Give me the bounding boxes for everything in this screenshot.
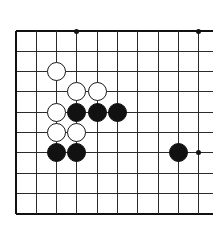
grid-line-vertical-8	[178, 31, 179, 214]
grid-line-horizontal-0	[16, 30, 213, 32]
grid-line-vertical-9	[198, 31, 199, 214]
grid-line-vertical-4	[97, 31, 98, 214]
grid-line-horizontal-2	[16, 71, 213, 72]
white-stone-d4[interactable]	[67, 82, 86, 101]
star-point-top-right-icon	[196, 29, 201, 34]
star-point-right-icon	[196, 150, 201, 155]
board-grid	[0, 0, 224, 238]
grid-line-horizontal-5	[16, 132, 213, 133]
grid-line-horizontal-9	[16, 213, 213, 215]
star-point-top-icon	[74, 29, 79, 34]
grid-line-horizontal-7	[16, 173, 213, 174]
grid-line-vertical-6	[137, 31, 138, 214]
grid-line-horizontal-3	[16, 91, 213, 92]
white-stone-e4[interactable]	[88, 82, 107, 101]
black-stone-c7[interactable]	[47, 143, 66, 162]
white-stone-d6[interactable]	[67, 123, 86, 142]
grid-line-vertical-5	[117, 31, 118, 214]
black-stone-f5[interactable]	[108, 103, 127, 122]
grid-line-vertical-0	[15, 31, 17, 214]
black-stone-d5[interactable]	[67, 103, 86, 122]
black-stone-d7[interactable]	[67, 143, 86, 162]
grid-line-horizontal-8	[16, 193, 213, 194]
grid-line-vertical-7	[158, 31, 159, 214]
black-stone-i7[interactable]	[169, 143, 188, 162]
grid-line-vertical-1	[36, 31, 37, 214]
white-stone-c3[interactable]	[47, 62, 66, 81]
black-stone-e5[interactable]	[88, 103, 107, 122]
white-stone-c6[interactable]	[47, 123, 66, 142]
white-stone-c5[interactable]	[47, 103, 66, 122]
grid-line-horizontal-1	[16, 51, 213, 52]
go-board-diagram	[0, 0, 224, 238]
